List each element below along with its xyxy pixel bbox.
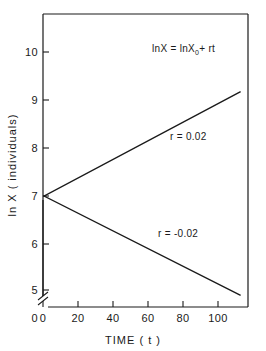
y-tick-label-8: 8 <box>31 142 38 154</box>
svg-text:lnX = lnX0+ rt: lnX = lnX0+ rt <box>152 43 215 56</box>
y-tick-labels: 10 9 8 7 6 5 <box>25 46 38 296</box>
x-tick-label-80: 80 <box>176 312 189 324</box>
series-line-negative-growth <box>44 196 240 295</box>
series-label-negative: r = -0.02 <box>158 228 198 239</box>
equation-main: lnX = lnX <box>152 43 195 54</box>
plot-frame <box>43 14 248 307</box>
y-tick-label-10: 10 <box>25 46 38 58</box>
x-tick-label-60: 60 <box>141 312 154 324</box>
x-tick-labels: 0 20 40 60 80 100 <box>40 312 228 324</box>
x-axis-title: TIME ( t ) <box>105 334 161 346</box>
x-tick-label-100: 100 <box>208 312 228 324</box>
chart-canvas: 10 9 8 7 6 5 0 20 40 60 80 100 <box>0 0 266 351</box>
series-line-positive-growth <box>44 92 240 196</box>
y-tick-label-9: 9 <box>31 94 38 106</box>
y-axis-title: ln X ( individuals) <box>6 114 18 217</box>
x-tick-label-40: 40 <box>106 312 119 324</box>
y-tick-label-6: 6 <box>31 238 38 250</box>
y-tick-label-7: 7 <box>31 190 38 202</box>
y-origin-label: 0 <box>31 312 38 324</box>
x-tick-label-20: 20 <box>71 312 84 324</box>
x-tick-label-0: 0 <box>40 312 47 324</box>
y-tick-marks <box>43 52 49 290</box>
equation-tail: + rt <box>199 43 215 54</box>
data-series <box>44 92 240 295</box>
equation-annotation: lnX = lnX0+ rt <box>152 43 215 56</box>
x-tick-marks <box>43 301 218 307</box>
series-label-positive: r = 0.02 <box>170 131 207 142</box>
y-tick-label-5: 5 <box>31 284 38 296</box>
figure-container: 10 9 8 7 6 5 0 20 40 60 80 100 <box>0 0 266 351</box>
